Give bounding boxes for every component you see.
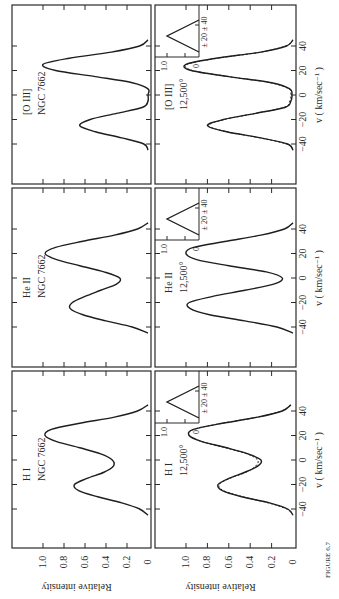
intensity-axis-observed: 00.20.40.60.81.0Relative intensity — [37, 556, 153, 593]
intensity-tick-label: 0.8 — [201, 556, 212, 569]
velocity-tick-label: 40 — [297, 41, 308, 51]
temperature-label: 12,500° — [178, 445, 189, 477]
intensity-tick-label: 0.4 — [244, 556, 255, 569]
intensity-tick-label: 0.2 — [266, 556, 277, 569]
inset-triangle — [167, 386, 199, 418]
inset-velocity-labels: ± 20 ± 40 — [200, 200, 209, 231]
inset-triangle — [167, 203, 199, 235]
panel-frame — [12, 371, 151, 548]
velocity-tick-label: 0 — [297, 93, 308, 98]
inset-tick-label: 1.0 — [160, 244, 169, 254]
inset-tick-label: 0 — [192, 430, 201, 434]
profile-curve-dashed — [188, 405, 293, 515]
intensity-tick-label: 0.2 — [121, 556, 132, 569]
line-label: He II — [163, 272, 174, 293]
inset-tick-label: 1.0 — [160, 427, 169, 437]
inset-tick-label: 0 — [192, 64, 201, 68]
panel-observed-heii: He IINGC 7662 — [12, 188, 151, 367]
object-label: NGC 7662 — [36, 254, 47, 298]
panel-frame — [12, 5, 151, 184]
velocity-tick-labels: −40−2002040v ( km/sec⁻¹ ) — [297, 406, 325, 517]
line-label: H I — [21, 468, 32, 481]
profile-curve — [43, 40, 150, 150]
inset-velocity-labels: ± 20 ± 40 — [200, 383, 209, 414]
x-axis-label: v ( km/sec⁻¹ ) — [313, 432, 325, 488]
object-label: NGC 7662 — [36, 71, 47, 115]
panel-observed-oiii: [O III]NGC 7662 — [12, 5, 151, 184]
velocity-tick-label: 0 — [297, 276, 308, 281]
figure-caption: FIGURE 6.7 — [324, 542, 332, 578]
panel-model-heii: He II12,500°1.00± 20 ± 40−40−2002040v ( … — [155, 188, 325, 367]
object-label: NGC 7662 — [36, 437, 47, 481]
line-label: He II — [21, 277, 32, 298]
velocity-tick-labels: −40−2002040v ( km/sec⁻¹ ) — [297, 224, 325, 335]
velocity-tick-label: −20 — [297, 477, 308, 493]
velocity-tick-label: 20 — [297, 66, 308, 76]
figure-6-7: [O III]NGC 7662[O III]12,500°1.00± 20 ± … — [0, 0, 339, 599]
temperature-label: 12,500° — [178, 262, 189, 294]
x-axis-label: v ( km/sec⁻¹ ) — [313, 67, 325, 123]
labels-group: 00.20.40.60.81.0Relative intensity00.20.… — [37, 542, 332, 593]
profile-curve — [184, 40, 293, 150]
panel-observed-hi: H INGC 7662 — [12, 371, 151, 548]
intensity-tick-label: 0.8 — [58, 556, 69, 569]
panels-group: [O III]NGC 7662[O III]12,500°1.00± 20 ± … — [12, 5, 325, 548]
intensity-tick-label: 0 — [142, 560, 153, 565]
velocity-tick-label: −20 — [297, 112, 308, 128]
x-axis-label: v ( km/sec⁻¹ ) — [313, 250, 325, 306]
panel-frame — [12, 188, 151, 367]
inset-velocity-field: 1.00± 20 ± 40 — [155, 188, 209, 254]
velocity-tick-label: −40 — [297, 319, 308, 335]
panel-model-oiii: [O III]12,500°1.00± 20 ± 40−40−2002040v … — [155, 5, 325, 184]
velocity-tick-label: 40 — [297, 406, 308, 416]
velocity-tick-label: −40 — [297, 501, 308, 517]
intensity-tick-label: 1.0 — [37, 556, 48, 569]
velocity-tick-labels: −40−2002040v ( km/sec⁻¹ ) — [297, 41, 325, 152]
y-axis-label: Relative intensity — [185, 582, 255, 593]
y-axis-label: Relative intensity — [41, 582, 111, 593]
line-label: H I — [163, 463, 174, 476]
velocity-tick-label: 20 — [297, 431, 308, 441]
velocity-tick-label: 40 — [297, 224, 308, 234]
inset-triangle — [167, 20, 199, 52]
line-label: [O III] — [21, 89, 32, 115]
inset-tick-label: 1.0 — [160, 61, 169, 71]
profile-curve — [45, 223, 148, 333]
panel-model-hi: H I12,500°1.00± 20 ± 40−40−2002040v ( km… — [155, 371, 325, 548]
intensity-tick-label: 0.6 — [223, 556, 234, 569]
velocity-tick-label: −20 — [297, 295, 308, 311]
temperature-label: 12,500° — [178, 79, 189, 111]
inset-velocity-labels: ± 20 ± 40 — [200, 17, 209, 48]
velocity-tick-label: 0 — [297, 458, 308, 463]
profile-curve — [186, 223, 293, 333]
inset-tick-label: 0 — [192, 247, 201, 251]
velocity-tick-label: −40 — [297, 136, 308, 152]
intensity-tick-label: 1.0 — [180, 556, 191, 569]
intensity-tick-label: 0.6 — [79, 556, 90, 569]
intensity-axis-model: 00.20.40.60.81.0Relative intensity — [180, 556, 298, 593]
velocity-tick-label: 20 — [297, 249, 308, 259]
profile-curve — [188, 405, 293, 515]
profile-curve — [45, 405, 148, 515]
intensity-tick-label: 0 — [287, 560, 298, 565]
line-label: [O III] — [163, 84, 174, 110]
intensity-tick-label: 0.4 — [100, 556, 111, 569]
